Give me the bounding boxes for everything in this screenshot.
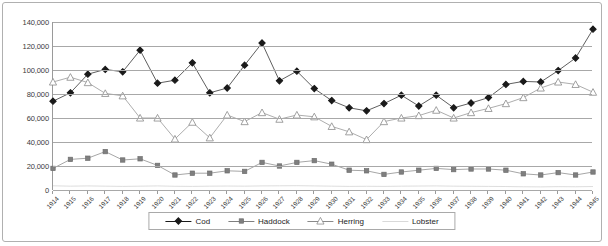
x-axis-tick xyxy=(487,191,488,194)
x-axis-tick-label: 1933 xyxy=(376,195,391,210)
data-point xyxy=(503,81,509,87)
data-point xyxy=(154,80,160,86)
data-point xyxy=(225,169,229,173)
data-point xyxy=(485,95,491,101)
legend-marker-diamond-icon xyxy=(173,216,184,227)
x-axis-tick-label: 1928 xyxy=(289,195,304,210)
gridline xyxy=(53,22,592,23)
x-axis-tick xyxy=(52,191,53,194)
x-axis-tick-label: 1935 xyxy=(411,195,426,210)
x-axis-tick xyxy=(139,191,140,194)
series-lobster xyxy=(53,186,593,187)
x-axis-tick-label: 1932 xyxy=(359,195,374,210)
y-axis: 020,00040,00060,00080,000100,000120,0001… xyxy=(3,22,49,190)
x-axis-tick-label: 1931 xyxy=(341,195,356,210)
data-point xyxy=(347,168,351,172)
gridline xyxy=(53,46,592,47)
gridline xyxy=(53,70,592,71)
data-point xyxy=(399,170,403,174)
data-point xyxy=(520,78,526,84)
x-axis-tick-label: 1941 xyxy=(515,195,530,210)
data-point xyxy=(224,85,230,91)
legend-item-lobster[interactable]: Lobster xyxy=(382,217,439,226)
y-axis-tick-label: 80,000 xyxy=(27,90,49,99)
gridline xyxy=(53,94,592,95)
x-axis-tick-label: 1916 xyxy=(80,195,95,210)
data-point xyxy=(521,172,525,176)
x-axis-tick xyxy=(174,191,175,194)
x-axis-tick-label: 1914 xyxy=(45,195,60,210)
x-axis-tick-label: 1925 xyxy=(237,195,252,210)
y-axis-tick-label: 100,000 xyxy=(23,66,49,75)
x-axis-tick xyxy=(226,191,227,194)
data-point xyxy=(381,101,387,107)
legend-swatch-lobster xyxy=(382,221,408,222)
x-axis-tick xyxy=(366,191,367,194)
data-point xyxy=(295,160,299,164)
chart-frame: 020,00040,00060,00080,000100,000120,0001… xyxy=(2,2,602,242)
x-axis-tick xyxy=(383,191,384,194)
x-axis-tick xyxy=(261,191,262,194)
x-axis-tick xyxy=(313,191,314,194)
data-point xyxy=(555,78,562,85)
data-point xyxy=(539,173,543,177)
x-axis-tick-label: 1929 xyxy=(306,195,321,210)
x-axis-tick xyxy=(209,191,210,194)
x-axis-tick xyxy=(522,191,523,194)
legend-label: Lobster xyxy=(412,217,439,226)
x-axis-tick xyxy=(400,191,401,194)
data-point xyxy=(346,105,352,111)
x-axis-tick-label: 1942 xyxy=(533,195,548,210)
x-axis-tick-label: 1944 xyxy=(568,195,583,210)
legend-item-cod[interactable]: Cod xyxy=(165,217,210,226)
data-point xyxy=(49,78,56,85)
data-point xyxy=(276,78,282,84)
legend-swatch-cod xyxy=(165,221,191,222)
legend-marker-triangle-icon xyxy=(315,216,326,227)
x-axis-tick xyxy=(557,191,558,194)
data-point xyxy=(504,168,508,172)
x-axis-tick xyxy=(157,191,158,194)
x-axis-tick xyxy=(87,191,88,194)
series-layer xyxy=(53,22,593,190)
data-point xyxy=(469,167,473,171)
gridline xyxy=(53,142,592,143)
x-axis-tick xyxy=(278,191,279,194)
x-axis-tick xyxy=(348,191,349,194)
data-point xyxy=(363,108,369,114)
x-axis-tick-label: 1924 xyxy=(219,195,234,210)
x-axis-tick-label: 1920 xyxy=(150,195,165,210)
x-axis-tick-label: 1934 xyxy=(393,195,408,210)
data-point xyxy=(189,119,196,126)
data-point xyxy=(416,103,422,109)
x-axis-tick-label: 1926 xyxy=(254,195,269,210)
legend-label: Cod xyxy=(195,217,210,226)
series-line xyxy=(53,77,593,139)
x-axis-tick-label: 1915 xyxy=(62,195,77,210)
legend-item-herring[interactable]: Herring xyxy=(308,217,364,226)
y-axis-tick-label: 40,000 xyxy=(27,138,49,147)
data-point xyxy=(556,170,560,174)
x-axis-tick xyxy=(191,191,192,194)
x-axis-tick xyxy=(331,191,332,194)
data-point xyxy=(120,158,124,162)
series-haddock xyxy=(51,149,595,177)
x-axis-tick xyxy=(418,191,419,194)
x-axis-tick xyxy=(470,191,471,194)
legend-item-haddock[interactable]: Haddock xyxy=(228,217,290,226)
data-point xyxy=(417,168,421,172)
y-axis-tick-label: 20,000 xyxy=(27,162,49,171)
x-axis-tick-label: 1918 xyxy=(115,195,130,210)
chart-legend: CodHaddockHerringLobster xyxy=(148,212,455,230)
x-axis-tick xyxy=(453,191,454,194)
data-point xyxy=(329,98,335,104)
legend-label: Herring xyxy=(338,217,364,226)
data-point xyxy=(50,98,56,104)
data-point xyxy=(451,167,455,171)
data-point xyxy=(260,160,264,164)
gridline xyxy=(53,118,592,119)
data-point xyxy=(485,105,492,112)
y-axis-tick-label: 0 xyxy=(45,186,49,195)
y-axis-tick-label: 120,000 xyxy=(23,42,49,51)
data-point xyxy=(451,105,457,111)
